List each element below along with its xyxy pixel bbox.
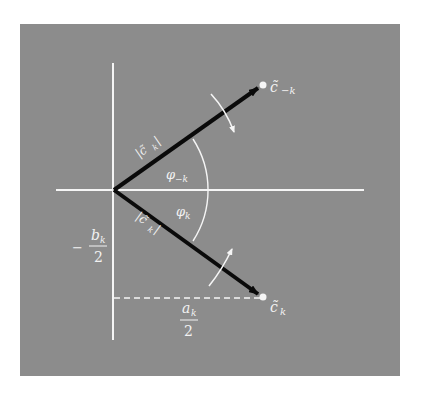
svg-text:k: k xyxy=(100,235,105,245)
diagram-panel xyxy=(20,24,400,376)
svg-text:k: k xyxy=(191,308,196,318)
endpoint-c-k xyxy=(260,294,267,301)
svg-text:c̃: c̃ xyxy=(270,79,278,95)
svg-text:a: a xyxy=(182,300,190,316)
svg-text:c̃: c̃ xyxy=(270,299,278,315)
endpoint-c-minus-k xyxy=(260,82,267,89)
svg-text:k: k xyxy=(280,306,286,317)
svg-text:2: 2 xyxy=(184,323,193,339)
svg-text:2: 2 xyxy=(94,249,103,265)
svg-text:−: − xyxy=(72,240,83,255)
svg-text:b: b xyxy=(91,227,100,243)
phasor-diagram: c̃ −k c̃ k |c̃ k | |c̃ k | φ −k φ k − b … xyxy=(0,0,422,396)
svg-text:−k: −k xyxy=(175,174,188,184)
svg-text:−k: −k xyxy=(281,85,295,96)
svg-text:k: k xyxy=(185,211,190,221)
